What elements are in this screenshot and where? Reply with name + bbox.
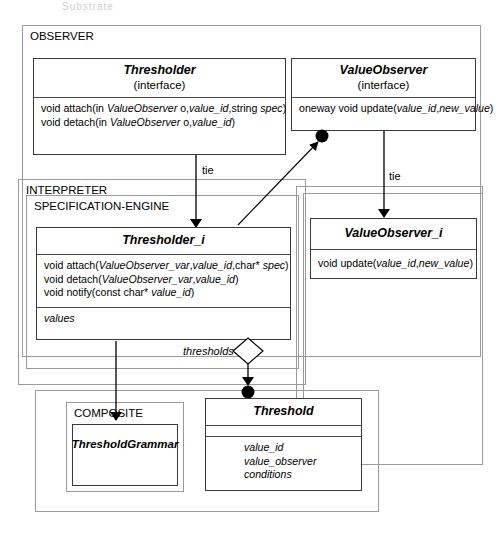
class-thresholder[interactable]: Thresholder (interface) void attach(in V… <box>33 58 286 155</box>
class-thresholdgrammar[interactable]: ThresholdGrammar <box>72 424 178 486</box>
class-thresholder-i-op-2: void notify(const char* value_id) <box>44 286 283 300</box>
class-thresholder-op-1: void detach(in ValueObserver o,value_id) <box>41 116 278 130</box>
ghost-header-text: Substrate <box>62 1 114 12</box>
class-thresholder-operations: void attach(in ValueObserver o,value_id,… <box>34 97 285 154</box>
class-valueobserver-header: ValueObserver (interface) <box>292 59 475 97</box>
class-thresholder-header: Thresholder (interface) <box>34 59 285 97</box>
class-valueobserver-i-operations: void update(value_id,new_value) <box>311 249 476 278</box>
class-valueobserver[interactable]: ValueObserver (interface) oneway void up… <box>291 58 476 131</box>
class-valueobserver-i[interactable]: ValueObserver_i void update(value_id,new… <box>310 218 477 279</box>
class-thresholder-i-attr-0: values <box>44 312 283 326</box>
class-thresholder-i-operations: void attach(ValueObserver_var,value_id,c… <box>37 254 290 307</box>
class-thresholder-i[interactable]: Thresholder_i void attach(ValueObserver_… <box>36 227 291 340</box>
class-valueobserver-stereotype: (interface) <box>299 78 468 92</box>
diagram-canvas: Substrate OBSERVER INTERPRETER SPECIFICA… <box>0 0 503 539</box>
class-valueobserver-i-header: ValueObserver_i <box>311 219 476 249</box>
class-thresholder-i-attributes: values <box>37 307 290 339</box>
class-threshold-attr-2: conditions <box>244 468 354 482</box>
edge-label-tie-right: tie <box>389 170 401 183</box>
class-threshold-name: Threshold <box>253 404 313 419</box>
class-thresholder-i-name: Thresholder_i <box>122 233 205 248</box>
class-threshold-attr-0: value_id <box>244 441 354 455</box>
frame-observer-label: OBSERVER <box>30 30 94 43</box>
class-valueobserver-op-0: oneway void update(value_id,new_value) <box>299 102 468 116</box>
class-valueobserver-name: ValueObserver <box>299 63 468 78</box>
class-valueobserver-i-name: ValueObserver_i <box>344 226 442 241</box>
edge-label-tie-left: tie <box>202 164 214 177</box>
class-threshold-attributes: value_id value_observer conditions <box>206 436 361 490</box>
class-threshold-operations <box>206 425 361 436</box>
class-threshold[interactable]: Threshold value_id value_observer condit… <box>205 398 362 491</box>
edge-label-thresholds: thresholds <box>183 345 234 358</box>
class-thresholdgrammar-name: ThresholdGrammar <box>72 437 179 452</box>
class-threshold-header: Threshold <box>206 399 361 425</box>
class-thresholder-i-header: Thresholder_i <box>37 228 290 254</box>
class-thresholder-name: Thresholder <box>41 63 278 78</box>
class-valueobserver-i-op-0: void update(value_id,new_value) <box>318 257 473 271</box>
class-thresholder-i-op-1: void detach(ValueObserver_var,value_id) <box>44 273 283 287</box>
class-thresholdgrammar-header: ThresholdGrammar <box>73 425 177 485</box>
class-thresholder-stereotype: (interface) <box>41 78 278 92</box>
class-thresholder-op-0: void attach(in ValueObserver o,value_id,… <box>41 102 278 116</box>
frame-specification-engine-label: SPECIFICATION-ENGINE <box>34 200 169 213</box>
frame-composite-label: COMPOSITE <box>74 407 143 420</box>
class-threshold-attr-1: value_observer <box>244 455 354 469</box>
class-valueobserver-operations: oneway void update(value_id,new_value) <box>292 97 475 130</box>
class-thresholder-i-op-0: void attach(ValueObserver_var,value_id,c… <box>44 259 283 273</box>
